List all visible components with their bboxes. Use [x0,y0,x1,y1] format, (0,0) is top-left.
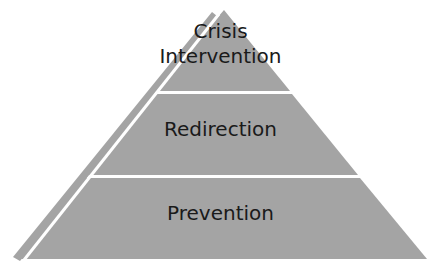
level-label-middle: Redirection [0,117,441,142]
level-label-bottom: Prevention [0,201,441,226]
level-label-top-line2: Intervention [0,44,441,69]
level-label-top-line1: Crisis [0,19,441,44]
level-label-top: Crisis Intervention [0,19,441,69]
pyramid-diagram: Crisis Intervention Redirection Preventi… [0,0,441,273]
